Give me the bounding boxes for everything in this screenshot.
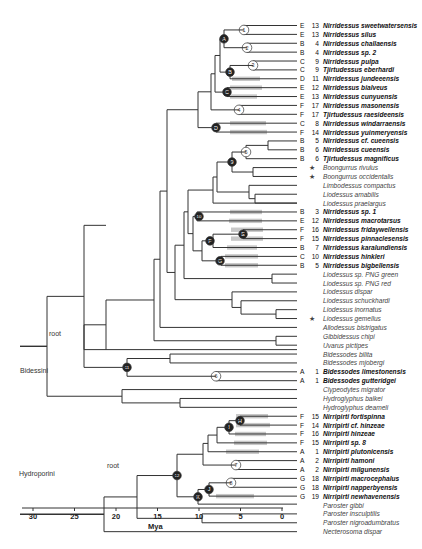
taxon-name: Bidessodes gutteridgei — [323, 377, 396, 384]
area-code: G — [300, 474, 309, 483]
taxon-name: Paroster insculptilis — [323, 510, 380, 517]
x-axis-tick-label: 0 — [280, 512, 284, 521]
star-icon: ★ — [300, 163, 323, 172]
taxon-label: E13Nirridessus sweetwatersensis — [300, 21, 417, 30]
taxon-name: Bidessodes mjobergi — [323, 359, 384, 366]
locality-number: 9 — [309, 57, 319, 66]
locality-number: 15 — [309, 412, 319, 421]
taxon-name: Nirridessus masonensis — [323, 102, 399, 109]
taxon-label: E13Nirridessus cunyuensis — [300, 92, 397, 101]
taxon-label: C9Nirridessus pulpa — [300, 57, 379, 66]
taxon-label: B7Nirridessus karalundiensis — [300, 243, 407, 252]
svg-text:10: 10 — [197, 214, 202, 219]
taxon-name: Uvarus pictipes — [323, 342, 368, 349]
taxon-name: Tjirtudessus raesideensis — [323, 111, 404, 118]
locality-number: 12 — [309, 83, 319, 92]
locality-number: 13 — [309, 21, 319, 30]
taxon-name: Nirridessus cf. cueensis — [323, 137, 399, 144]
taxon-label: Liodessus schuckhardi — [300, 296, 390, 305]
taxon-name: Liodessus amabilis — [323, 191, 379, 198]
locality-number: 7 — [309, 243, 319, 252]
area-code: A — [300, 447, 309, 456]
taxon-label: Liodessus praelargus — [300, 199, 386, 208]
taxon-name: Nirridessus sweetwatersensis — [323, 22, 417, 29]
taxon-name: Paroster nigroadumbratus — [323, 519, 399, 526]
taxon-name: Nirridessus cunyuensis — [323, 93, 397, 100]
taxon-name: Nirridessus yuinmeryensis — [323, 129, 407, 136]
taxon-label: B4Nirridessus challaensis — [300, 39, 397, 48]
locality-number: 18 — [309, 483, 319, 492]
taxon-label: B4Nirridessus sp. 2 — [300, 48, 376, 57]
locality-number: 16 — [309, 429, 319, 438]
taxon-label: A1Bidessodes gutteridgei — [300, 376, 396, 385]
locality-number: 5 — [309, 261, 319, 270]
taxon-label: F17Tjirtudessus raesideensis — [300, 110, 404, 119]
area-code: B — [300, 48, 309, 57]
taxon-label: Bidessodes mjobergi — [300, 358, 384, 367]
taxon-label: A1Bidessodes limestonensis — [300, 367, 406, 376]
area-code: C — [300, 119, 309, 128]
taxon-name: Nirripirti napperbyensis — [323, 484, 397, 491]
area-code: C — [300, 65, 309, 74]
taxon-name: Nirripirti cf. hinzeae — [323, 422, 385, 429]
taxon-label: F16Nirripirti hinzeae — [300, 429, 375, 438]
area-code: E — [300, 30, 309, 39]
taxon-label: Necterosoma dispar — [300, 527, 382, 536]
locality-number: 14 — [309, 421, 319, 430]
locality-number: 15 — [309, 234, 319, 243]
taxon-name: Liodessus dispar — [323, 288, 372, 295]
locality-number: 3 — [309, 207, 319, 216]
root-label-bidessini: root — [48, 330, 62, 337]
taxon-name: Liodessus schuckhardi — [323, 297, 390, 304]
locality-number: 1 — [309, 376, 319, 385]
taxon-name: Nirridessus sp. 1 — [323, 208, 376, 215]
taxon-label: Hydroglyphus deameli — [300, 403, 388, 412]
taxon-name: Nirripirti sp. 8 — [323, 439, 366, 446]
area-code: C — [300, 57, 309, 66]
root-label-hydroporini: root — [106, 462, 120, 469]
taxon-label: G18Nirripirti macrocephalus — [300, 474, 399, 483]
taxon-label: B5Nirridessus bigbellensis — [300, 261, 399, 270]
taxon-label: D11Nirridessus jundeeensis — [300, 74, 399, 83]
taxon-label: Liodessus sp. PNG red — [300, 279, 391, 288]
taxon-name: Clypeodytes migrator — [323, 386, 385, 393]
taxon-label: F14Nirridessus yuinmeryensis — [300, 128, 407, 137]
locality-number: 16 — [309, 225, 319, 234]
taxon-name: Hydroglyphus deameli — [323, 404, 388, 411]
locality-number: 8 — [309, 119, 319, 128]
locality-number: 15 — [309, 438, 319, 447]
area-code: E — [300, 21, 309, 30]
taxon-name: Nirridessus pulpa — [323, 58, 379, 65]
taxon-name: Nirridessus pinnaclesensis — [323, 235, 408, 242]
locality-number: 10 — [309, 252, 319, 261]
taxon-name: Nirripirti hamoni — [323, 457, 374, 464]
locality-number: 18 — [309, 474, 319, 483]
taxon-label: Bidessodes bilita — [300, 350, 372, 359]
area-code: C — [300, 252, 309, 261]
taxon-name: Nirridessus challaensis — [323, 40, 397, 47]
area-code: F — [300, 438, 309, 447]
taxon-label: ★Boongurrus occidentalis — [300, 172, 393, 181]
area-code: B — [300, 154, 309, 163]
locality-number: 11 — [309, 74, 319, 83]
taxon-label: E12Nirridessus macrotarsus — [300, 216, 401, 225]
taxon-name: Nirripirti macrocephalus — [323, 475, 399, 482]
taxon-label: Hydroglyphus balkei — [300, 394, 382, 403]
area-code: A — [300, 376, 309, 385]
taxon-label: Clypeodytes migrator — [300, 385, 385, 394]
locality-number: 6 — [309, 154, 319, 163]
area-code: D — [300, 74, 309, 83]
taxon-label: F17Nirridessus masonensis — [300, 101, 399, 110]
x-axis-tick-label: 30 — [29, 512, 37, 521]
area-code: B — [300, 207, 309, 216]
taxon-name: Liodessus sp. PNG green — [323, 271, 398, 278]
taxon-name: Liodessus praelargus — [323, 200, 386, 207]
taxon-label: A2Nirripirti milgunensis — [300, 465, 389, 474]
taxon-label: C8Nirridessus windarraensis — [300, 119, 405, 128]
taxon-name: Tjirtudessus magnificus — [323, 155, 399, 162]
locality-number: 1 — [309, 447, 319, 456]
area-code: F — [300, 110, 309, 119]
taxon-name: Nirridessus macrotarsus — [323, 217, 401, 224]
taxon-label: B5Nirridessus cf. cueensis — [300, 136, 399, 145]
taxon-name: Nirridessus fridaywellensis — [323, 226, 408, 233]
